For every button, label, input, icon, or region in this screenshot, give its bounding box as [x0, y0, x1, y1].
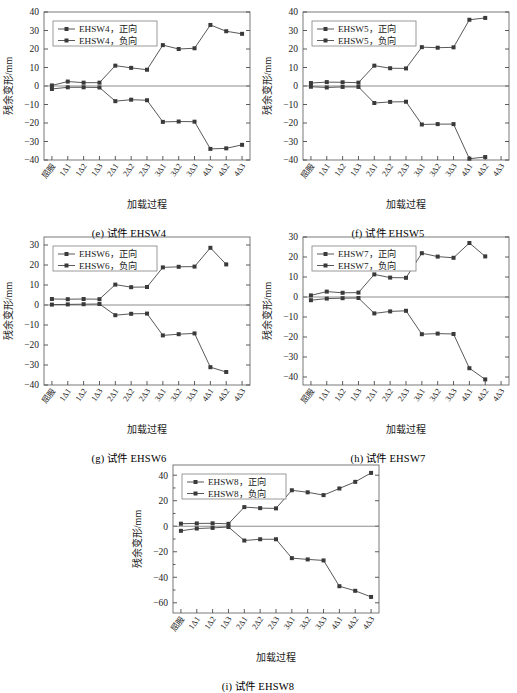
legend-label: EHSW4，正向	[79, 23, 137, 34]
data-point-marker	[129, 66, 133, 70]
x-tick-label: 2Δ2	[380, 387, 395, 403]
chart-panel-ehsw6: −40−30−20−100102030屈服1Δ11Δ21Δ32Δ12Δ22Δ33…	[0, 227, 258, 465]
data-point-marker	[322, 558, 326, 562]
data-point-marker	[404, 66, 408, 70]
x-tick-label: 2Δ1	[234, 615, 249, 631]
data-point-marker	[177, 120, 181, 124]
x-tick-label: 4Δ1	[459, 387, 474, 403]
data-point-marker	[50, 83, 54, 87]
data-point-marker	[242, 505, 246, 509]
data-point-marker	[97, 81, 101, 85]
y-tick-label: −30	[283, 137, 298, 147]
y-tick-label: −20	[24, 340, 39, 350]
x-tick-label: 1Δ3	[349, 162, 364, 178]
legend-marker-sample	[194, 480, 198, 484]
y-tick-label: 0	[293, 292, 298, 302]
x-tick-label: 1Δ3	[219, 615, 234, 631]
data-point-marker	[113, 99, 117, 103]
data-point-marker	[145, 285, 149, 289]
x-tick-label: 3Δ2	[298, 615, 313, 631]
x-tick-label: 4Δ1	[200, 162, 215, 178]
x-tick-label: 4Δ2	[345, 615, 360, 631]
data-point-marker	[258, 537, 262, 541]
legend-label: EHSW7，负向	[338, 260, 396, 271]
data-point-marker	[50, 297, 54, 301]
x-tick-label: 3Δ2	[428, 387, 443, 403]
x-tick-label: 3Δ3	[444, 387, 459, 403]
data-point-marker	[179, 522, 183, 526]
x-tick-label: 3Δ3	[185, 387, 200, 403]
data-point-marker	[129, 285, 133, 289]
y-tick-label: −10	[24, 100, 39, 110]
y-tick-label: 40	[159, 471, 169, 481]
y-axis-title: 残余变形/mm	[261, 282, 273, 341]
data-point-marker	[341, 80, 345, 84]
x-tick-label: 1Δ3	[90, 162, 105, 178]
data-point-marker	[325, 297, 329, 301]
data-point-marker	[145, 312, 149, 316]
data-point-marker	[306, 557, 310, 561]
data-point-marker	[274, 537, 278, 541]
y-tick-label: 20	[289, 252, 299, 262]
x-tick-label: 2Δ2	[380, 162, 395, 178]
chart-svg-ehsw5: −40−30−20−10010203040屈服1Δ11Δ21Δ32Δ12Δ22Δ…	[259, 2, 517, 224]
data-point-marker	[224, 370, 228, 374]
y-tick-label: 40	[30, 7, 40, 17]
data-point-marker	[420, 332, 424, 336]
x-tick-label: 1Δ3	[349, 387, 364, 403]
x-tick-label: 2Δ1	[105, 387, 120, 403]
y-tick-label: 20	[289, 44, 299, 54]
data-point-marker	[193, 331, 197, 335]
x-tick-label: 屈服	[41, 387, 58, 405]
data-point-marker	[242, 539, 246, 543]
legend-label: EHSW6，正向	[79, 248, 137, 259]
y-tick-label: 40	[289, 7, 299, 17]
y-tick-label: −30	[24, 137, 39, 147]
y-tick-label: 10	[30, 63, 40, 73]
chart-svg-ehsw6: −40−30−20−100102030屈服1Δ11Δ21Δ32Δ12Δ22Δ33…	[0, 227, 258, 449]
data-point-marker	[113, 64, 117, 68]
y-tick-label: −20	[283, 118, 298, 128]
data-point-marker	[161, 265, 165, 269]
x-tick-label: 2Δ3	[266, 615, 281, 631]
data-point-marker	[161, 333, 165, 337]
legend-label: EHSW7，正向	[338, 248, 396, 259]
data-point-marker	[290, 488, 294, 492]
data-point-marker	[452, 332, 456, 336]
y-tick-label: −40	[283, 155, 298, 165]
y-tick-label: 20	[30, 44, 40, 54]
data-point-marker	[483, 155, 487, 159]
data-point-marker	[388, 276, 392, 280]
data-point-marker	[208, 23, 212, 27]
series-line-negative	[52, 304, 226, 372]
data-point-marker	[483, 377, 487, 381]
data-point-marker	[309, 85, 313, 89]
data-point-marker	[208, 147, 212, 151]
legend-marker-sample	[65, 264, 69, 268]
x-axis-title: 加载过程	[386, 198, 426, 210]
legend-label: EHSW8，正向	[208, 476, 266, 487]
legend-marker-sample	[324, 264, 328, 268]
x-tick-label: 4Δ2	[216, 387, 231, 403]
data-point-marker	[404, 309, 408, 313]
data-point-marker	[483, 16, 487, 20]
data-point-marker	[290, 556, 294, 560]
chart-svg-ehsw8: −60−40−2002040屈服1Δ11Δ21Δ32Δ12Δ22Δ33Δ13Δ2…	[129, 455, 387, 677]
chart-panel-ehsw5: −40−30−20−10010203040屈服1Δ11Δ21Δ32Δ12Δ22Δ…	[259, 2, 517, 240]
chart-svg-ehsw7: −40−30−20−100102030屈服1Δ11Δ21Δ32Δ12Δ22Δ33…	[259, 227, 517, 449]
y-tick-label: −20	[153, 547, 168, 557]
y-tick-label: −20	[24, 118, 39, 128]
data-point-marker	[356, 291, 360, 295]
panel-caption: (i) 试件 EHSW8	[129, 678, 387, 693]
data-point-marker	[97, 85, 101, 89]
x-tick-label: 2Δ3	[396, 387, 411, 403]
data-point-marker	[341, 291, 345, 295]
data-point-marker	[66, 297, 70, 301]
x-axis-title: 加载过程	[256, 651, 296, 663]
x-tick-label: 1Δ2	[74, 387, 89, 403]
x-tick-label: 屈服	[300, 387, 317, 405]
data-point-marker	[309, 293, 313, 297]
series-line-negative	[311, 298, 485, 379]
data-point-marker	[82, 297, 86, 301]
